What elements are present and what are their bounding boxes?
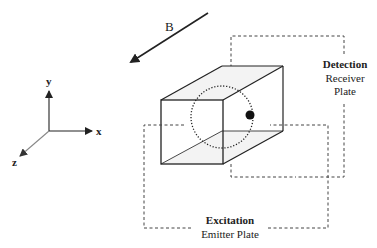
diagram-canvas: B y x z	[0, 0, 377, 248]
coordinate-axes: y x z	[12, 75, 102, 168]
y-axis-label: y	[46, 75, 52, 87]
z-axis-label: z	[12, 156, 17, 168]
x-axis-label: x	[96, 125, 102, 137]
excitation-line1: Emitter Plate	[201, 228, 259, 240]
detection-line2: Plate	[334, 85, 356, 97]
field-label-b: B	[165, 19, 174, 34]
ion-dot	[246, 111, 255, 120]
z-axis	[20, 131, 49, 156]
detection-label: Detection Receiver Plate	[323, 58, 368, 97]
detection-title: Detection	[323, 58, 368, 70]
excitation-label: Excitation Emitter Plate	[201, 214, 259, 240]
detection-line1: Receiver	[325, 72, 364, 84]
magnetic-field-arrow: B	[131, 13, 208, 62]
sample-cube	[161, 66, 283, 164]
excitation-title: Excitation	[206, 214, 254, 226]
